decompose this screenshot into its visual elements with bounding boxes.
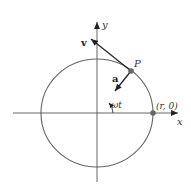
y-axis-label: y: [101, 19, 108, 30]
point-p-label: P: [133, 58, 141, 69]
circular-motion-diagram: y x P v a ωt (r, 0): [0, 0, 191, 185]
acceleration-label: a: [112, 73, 119, 84]
start-point-dot: [150, 110, 156, 116]
x-axis-label: x: [177, 116, 183, 127]
point-p-dot: [128, 68, 134, 74]
velocity-label: v: [80, 37, 88, 48]
angle-label: ωt: [111, 100, 122, 110]
start-point-label: (r, 0): [156, 101, 178, 111]
